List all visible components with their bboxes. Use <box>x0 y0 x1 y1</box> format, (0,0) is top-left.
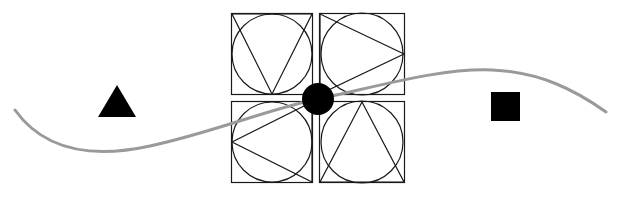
diagram-figure <box>0 0 644 197</box>
right-solid-square-icon <box>491 92 520 121</box>
diagram-canvas <box>0 0 644 197</box>
center-dot <box>302 83 334 115</box>
